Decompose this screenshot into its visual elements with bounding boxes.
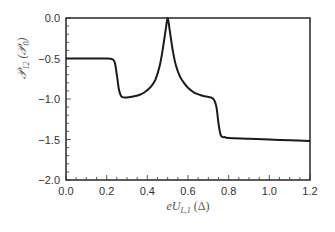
y-tick-label: −1.5 xyxy=(38,134,60,146)
x-tick-label: 0.0 xyxy=(58,185,73,197)
y-axis-title-sub: 12 xyxy=(22,62,31,70)
x-axis-title: eUL,1 (Δ) xyxy=(166,199,209,215)
y-tick-label: 0.0 xyxy=(45,12,60,24)
y-tick-label: −0.5 xyxy=(38,53,60,65)
chart: 0.00.20.40.60.81.01.20.0−0.5−1.0−1.5−2.0… xyxy=(0,0,335,232)
x-tick-label: 1.2 xyxy=(302,185,317,197)
x-axis-title-unit: (Δ) xyxy=(191,199,210,213)
ticks xyxy=(66,18,310,180)
x-axis-title-sub: L,1 xyxy=(179,206,190,215)
x-tick-label: 0.8 xyxy=(221,185,236,197)
x-tick-label: 0.2 xyxy=(99,185,114,197)
x-tick-label: 0.4 xyxy=(140,185,155,197)
y-tick-label: −2.0 xyxy=(38,174,60,186)
y-tick-label: −1.0 xyxy=(38,93,60,105)
plot-frame xyxy=(66,18,310,180)
series-layer xyxy=(66,18,310,141)
plot-area xyxy=(66,18,310,180)
x-tick-label: 1.0 xyxy=(262,185,277,197)
y-axis-title: 𝒫12 (𝒫0) xyxy=(15,38,31,79)
series-line xyxy=(66,18,310,141)
x-tick-label: 0.6 xyxy=(180,185,195,197)
tick-labels: 0.00.20.40.60.81.01.20.0−0.5−1.0−1.5−2.0 xyxy=(38,12,317,197)
y-axis-title-close: ) xyxy=(15,38,29,43)
